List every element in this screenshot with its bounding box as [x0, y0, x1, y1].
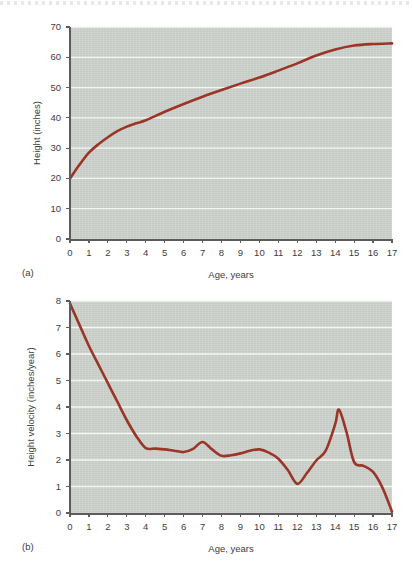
x-tick-label: 6: [181, 522, 186, 532]
panel-b: 012345678 01234567891011121314151617 Hei…: [0, 287, 413, 574]
x-tick-label: 15: [349, 522, 360, 532]
x-tick-label: 2: [105, 248, 110, 258]
x-tick-label: 13: [311, 248, 322, 258]
x-tick-label: 17: [387, 522, 398, 532]
y-tick: [66, 26, 70, 27]
x-tick: [126, 513, 127, 517]
y-tick: [66, 353, 70, 354]
y-axis-title-a: Height (inches): [31, 101, 42, 165]
y-tick-label: 0: [56, 234, 61, 244]
x-tick: [354, 239, 355, 243]
x-tick-label: 0: [67, 248, 72, 258]
x-tick: [69, 239, 70, 243]
x-tick: [183, 513, 184, 517]
x-tick: [297, 513, 298, 517]
x-tick-label: 4: [143, 522, 148, 532]
y-tick: [66, 208, 70, 209]
y-tick-label: 60: [50, 53, 61, 63]
y-tick: [66, 87, 70, 88]
x-tick: [107, 239, 108, 243]
x-tick-label: 0: [67, 522, 72, 532]
x-tick-label: 8: [219, 522, 224, 532]
x-tick: [278, 513, 279, 517]
y-tick: [66, 380, 70, 381]
y-tick: [66, 300, 70, 301]
x-tick-label: 5: [162, 248, 167, 258]
figure-page: 010203040506070 012345678910111213141516…: [0, 0, 413, 574]
y-tick-label: 40: [50, 113, 61, 123]
x-tick: [391, 513, 392, 517]
y-tick-label: 3: [56, 429, 61, 439]
x-tick-label: 9: [238, 248, 243, 258]
x-tick-label: 11: [273, 522, 283, 532]
y-tick-label: 5: [56, 376, 61, 386]
x-tick: [88, 239, 89, 243]
x-tick: [221, 513, 222, 517]
y-tick-label: 7: [56, 323, 61, 333]
y-tick-label: 30: [50, 143, 61, 153]
x-tick: [372, 239, 373, 243]
x-tick: [88, 513, 89, 517]
y-tick: [66, 406, 70, 407]
x-tick: [145, 513, 146, 517]
x-tick: [221, 239, 222, 243]
y-tick-label: 20: [50, 174, 61, 184]
x-tick: [297, 239, 298, 243]
y-tick: [66, 148, 70, 149]
x-axis-a: [69, 239, 393, 241]
y-tick-label: 6: [56, 349, 61, 359]
x-axis-title-b: Age, years: [208, 543, 253, 554]
x-tick: [240, 239, 241, 243]
chart-a: [0, 0, 413, 287]
x-tick: [372, 513, 373, 517]
x-tick-label: 3: [124, 522, 129, 532]
x-tick: [278, 239, 279, 243]
x-tick-label: 14: [330, 522, 341, 532]
x-axis-title-a: Age, years: [208, 269, 253, 280]
x-tick: [316, 239, 317, 243]
x-tick: [259, 513, 260, 517]
x-tick: [354, 513, 355, 517]
x-tick-label: 3: [124, 248, 129, 258]
x-tick: [335, 239, 336, 243]
y-tick: [66, 57, 70, 58]
x-tick-label: 8: [219, 248, 224, 258]
x-tick-label: 12: [292, 522, 303, 532]
x-tick-label: 11: [273, 248, 283, 258]
x-tick-label: 10: [254, 522, 265, 532]
x-tick-label: 1: [86, 522, 91, 532]
y-tick-label: 0: [56, 508, 61, 518]
y-tick-label: 70: [50, 22, 61, 32]
x-tick: [316, 513, 317, 517]
x-tick-label: 15: [349, 248, 360, 258]
y-tick-label: 2: [56, 455, 61, 465]
y-tick-label: 50: [50, 83, 61, 93]
x-tick: [202, 513, 203, 517]
x-tick-label: 7: [200, 522, 205, 532]
y-tick: [66, 433, 70, 434]
x-tick: [183, 239, 184, 243]
x-tick: [126, 239, 127, 243]
x-tick: [164, 239, 165, 243]
y-tick-label: 1: [56, 482, 61, 492]
x-tick-label: 9: [238, 522, 243, 532]
x-tick: [335, 513, 336, 517]
x-tick: [164, 513, 165, 517]
x-tick-label: 10: [254, 248, 265, 258]
series-line: [70, 304, 392, 512]
x-tick: [240, 513, 241, 517]
x-tick: [202, 239, 203, 243]
panel-tag-a: (a): [22, 267, 34, 278]
x-tick: [107, 513, 108, 517]
y-tick: [66, 117, 70, 118]
x-tick: [69, 513, 70, 517]
x-tick-label: 17: [387, 248, 398, 258]
x-tick-label: 4: [143, 248, 148, 258]
x-tick-label: 1: [86, 248, 91, 258]
x-tick-label: 16: [368, 248, 379, 258]
x-axis-b: [69, 513, 393, 515]
x-tick-label: 13: [311, 522, 322, 532]
y-tick: [66, 178, 70, 179]
panel-tag-b: (b): [22, 541, 34, 552]
panel-a: 010203040506070 012345678910111213141516…: [0, 0, 413, 287]
